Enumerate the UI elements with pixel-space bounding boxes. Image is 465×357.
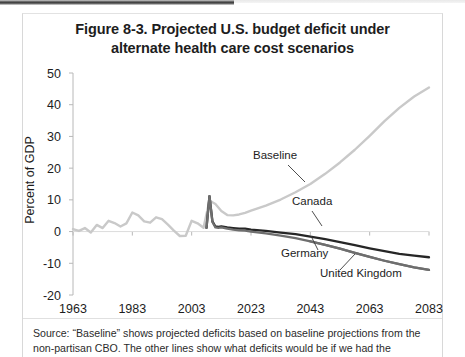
annotation-label-germany: Germany (281, 247, 329, 259)
chart-svg: 50403020100-10-20 1963198320032023204320… (0, 0, 465, 357)
leader-line-baseline (288, 165, 305, 182)
y-tick-label: -20 (43, 289, 61, 303)
x-tick-label: 1983 (118, 302, 146, 316)
annotation-label-united-kingdom: United Kingdom (320, 267, 402, 279)
y-axis-tick-marks (69, 73, 73, 295)
y-tick-label: 30 (47, 130, 61, 144)
x-axis-tick-labels: 1963198320032023204320632083 (59, 302, 443, 316)
source-note: Source: “Baseline” shows projected defic… (33, 326, 433, 356)
x-tick-label: 2083 (415, 302, 443, 316)
x-tick-label: 2023 (237, 302, 265, 316)
y-tick-label: 50 (47, 67, 61, 81)
chart-plot: 50403020100-10-20 1963198320032023204320… (0, 0, 465, 357)
y-axis-tick-labels: 50403020100-10-20 (43, 67, 61, 303)
page-canvas: Figure 8-3. Projected U.S. budget defici… (0, 0, 465, 357)
y-tick-label: -10 (43, 257, 61, 271)
annotation-label-baseline: Baseline (253, 149, 297, 161)
data-series-group (73, 88, 429, 270)
series-line-baseline (73, 88, 429, 236)
x-tick-label: 2043 (296, 302, 324, 316)
leader-line-canada (312, 211, 322, 226)
x-tick-label: 1963 (59, 302, 87, 316)
y-axis-title: Percent of GDP (23, 136, 37, 224)
x-tick-label: 2063 (356, 302, 384, 316)
y-tick-label: 0 (54, 225, 61, 239)
y-tick-label: 20 (47, 162, 61, 176)
source-separator (23, 318, 442, 319)
x-tick-label: 2003 (178, 302, 206, 316)
y-tick-label: 40 (47, 98, 61, 112)
annotation-label-canada: Canada (292, 195, 333, 207)
y-tick-label: 10 (47, 193, 61, 207)
